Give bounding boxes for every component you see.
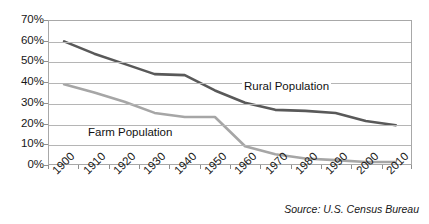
- gridline: [49, 42, 411, 43]
- y-axis-tick-label: 10%: [4, 138, 44, 150]
- gridline: [49, 83, 411, 84]
- x-axis: 1900191019201930194019501960197019801990…: [48, 168, 412, 208]
- series-label-farm: Farm Population: [86, 126, 174, 138]
- gridline: [49, 145, 411, 146]
- y-axis-tick-label: 70%: [4, 14, 44, 26]
- y-axis-tick-label: 30%: [4, 97, 44, 109]
- y-axis-tick-label: 0%: [4, 159, 44, 171]
- y-axis-tick-label: 50%: [4, 55, 44, 67]
- source-note: Source: U.S. Census Bureau: [284, 203, 419, 215]
- series-label-rural: Rural Population: [242, 80, 331, 92]
- y-axis-tick-label: 20%: [4, 118, 44, 130]
- gridline: [49, 104, 411, 105]
- y-axis: 70%60%50%40%30%20%10%0%: [0, 20, 44, 165]
- plot-area: [48, 20, 412, 165]
- y-axis-tick-label: 40%: [4, 76, 44, 88]
- chart-container: 70%60%50%40%30%20%10%0% 1900191019201930…: [0, 0, 429, 224]
- gridline: [49, 62, 411, 63]
- y-axis-tick-label: 60%: [4, 35, 44, 47]
